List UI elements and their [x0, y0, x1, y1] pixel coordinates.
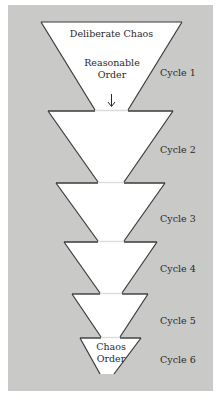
cycle-6-label: Cycle 6	[160, 354, 200, 365]
deliberate-chaos-label: Deliberate Chaos	[56, 28, 167, 39]
cycle-3-label: Cycle 3	[160, 213, 200, 224]
funnel-cycle-2	[48, 111, 173, 183]
cycle-2-label: Cycle 2	[160, 144, 200, 155]
funnel-cycle-5	[72, 294, 148, 338]
cycle-1-label: Cycle 1	[160, 67, 200, 78]
funnel-cycle-3	[56, 183, 165, 242]
chaos-label: Chaos	[90, 341, 132, 352]
cycle-4-label: Cycle 4	[160, 263, 200, 274]
order-bottom-label: Order	[90, 353, 132, 364]
funnel-cycle-4	[64, 242, 157, 294]
reasonable-label: Reasonable	[72, 57, 152, 68]
order-label: Order	[72, 69, 152, 80]
cycle-5-label: Cycle 5	[160, 315, 200, 326]
